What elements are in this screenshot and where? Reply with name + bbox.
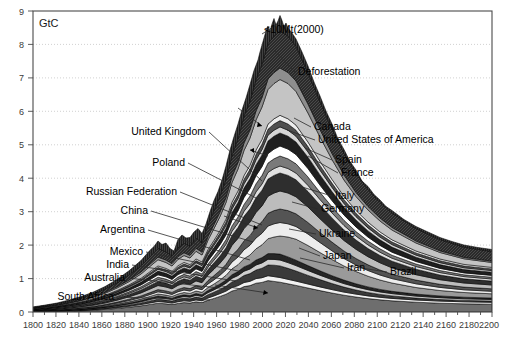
- annotation-brazil: Brazil: [390, 265, 416, 277]
- annotation-united-kingdom: United Kingdom: [131, 125, 206, 137]
- x-tick-2160: 2160: [436, 320, 456, 330]
- annotation-italy: Italy: [335, 189, 355, 201]
- x-tick-1840: 1840: [69, 320, 89, 330]
- y-axis-unit-label: GtC: [39, 17, 59, 29]
- annotation-india: India: [106, 258, 129, 270]
- x-tick-1920: 1920: [161, 320, 181, 330]
- annotation-usa: United States of America: [318, 133, 434, 145]
- y-tick-9: 9: [19, 7, 24, 17]
- x-tick-1900: 1900: [138, 320, 158, 330]
- annotation-iran: Iran: [347, 261, 365, 273]
- x-tick-1940: 1940: [184, 320, 204, 330]
- annotation-argentina: Argentina: [100, 223, 145, 235]
- x-tick-1880: 1880: [115, 320, 135, 330]
- annotation-canada: Canada: [314, 120, 351, 132]
- x-tick-2200: 2200: [479, 320, 499, 330]
- x-tickmarks-major: [33, 312, 492, 317]
- y-tickmarks: [28, 11, 33, 312]
- annotation-japan: Japan: [323, 249, 352, 261]
- y-tick-5: 5: [19, 140, 24, 150]
- annotation-south-africa: South Africa: [57, 290, 114, 302]
- annotation-france: France: [341, 166, 374, 178]
- x-tick-2060: 2060: [321, 320, 341, 330]
- x-tick-1820: 1820: [46, 320, 66, 330]
- y-tick-0: 0: [19, 308, 24, 318]
- chart-root: 9 8 7 6 5 4 3 2 1 0 GtC: [0, 0, 512, 344]
- x-axis-labels: 1800 1820 1840 1860 1880 1900 1920 1940 …: [23, 320, 499, 330]
- y-axis-labels: 9 8 7 6 5 4 3 2 1 0: [19, 7, 24, 318]
- y-tick-4: 4: [19, 174, 24, 184]
- y-tick-8: 8: [19, 40, 24, 50]
- y-tick-1: 1: [19, 274, 24, 284]
- y-tick-6: 6: [19, 107, 24, 117]
- y-tick-3: 3: [19, 207, 24, 217]
- x-tick-2040: 2040: [298, 320, 318, 330]
- annotation-china: China: [121, 204, 149, 216]
- annotation-germany: Germany: [321, 202, 365, 214]
- annotation-spain: Spain: [335, 153, 362, 165]
- y-tick-7: 7: [19, 73, 24, 83]
- x-tick-1960: 1960: [207, 320, 227, 330]
- x-tick-2080: 2080: [344, 320, 364, 330]
- x-tick-1860: 1860: [92, 320, 112, 330]
- annotation-deforestation: Deforestation: [298, 65, 361, 77]
- x-tick-2000: 2000: [252, 320, 272, 330]
- x-tick-1800: 1800: [23, 320, 43, 330]
- x-tick-2120: 2120: [390, 320, 410, 330]
- annotation-russian-federation: Russian Federation: [86, 185, 177, 197]
- x-tick-2140: 2140: [413, 320, 433, 330]
- x-tick-2180: 2180: [459, 320, 479, 330]
- x-tick-2020: 2020: [275, 320, 295, 330]
- x-tick-1980: 1980: [230, 320, 250, 330]
- annotation-poland: Poland: [152, 156, 185, 168]
- x-tick-2100: 2100: [367, 320, 387, 330]
- stacked-area-chart: 9 8 7 6 5 4 3 2 1 0 GtC: [0, 0, 512, 344]
- y-tick-2: 2: [19, 241, 24, 251]
- annotation-mexico: Mexico: [110, 245, 143, 257]
- annotation-under-10mt: <10Mt(2000): [264, 23, 324, 35]
- annotation-australia: Australia: [84, 271, 125, 283]
- annotation-ukraine: Ukraine: [319, 227, 355, 239]
